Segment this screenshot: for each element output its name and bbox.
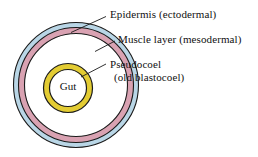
label-muscle-layer: Muscle layer (mesodermal)	[118, 33, 241, 46]
label-epidermis: Epidermis (ectodermal)	[110, 8, 216, 21]
label-pseudocoel: Pseudocoel (old blastocoel)	[110, 58, 184, 83]
label-pseudocoel-line2: (old blastocoel)	[110, 71, 184, 84]
label-gut: Gut	[43, 80, 93, 92]
label-pseudocoel-line1: Pseudocoel	[110, 58, 161, 70]
cross-section-figure: Epidermis (ectodermal) Muscle layer (mes…	[0, 0, 258, 157]
